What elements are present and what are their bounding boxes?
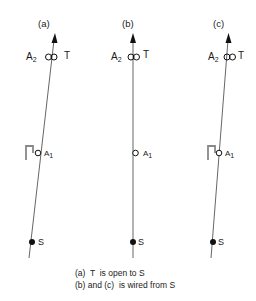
ring-a1-icon <box>35 150 41 156</box>
panel-a <box>26 33 58 258</box>
caption-line-2: (b) and (c) is wired from S <box>75 280 175 291</box>
label-s-a: S <box>38 237 44 247</box>
double-ring-icon <box>46 54 58 60</box>
caption-line-1: (a) T is open to S <box>75 268 145 279</box>
arrow-head-icon <box>226 33 232 43</box>
label-a2-b: A2 <box>111 52 122 65</box>
ring-a1-icon <box>216 150 222 156</box>
panel-title-c: (c) <box>213 19 224 29</box>
double-ring-icon <box>224 54 236 60</box>
label-t-c: T <box>238 51 244 61</box>
gate-bracket-icon <box>208 146 215 160</box>
panel-c <box>208 33 236 258</box>
source-dot-icon <box>29 239 35 245</box>
label-t-b: T <box>143 50 149 60</box>
double-ring-icon <box>128 54 140 60</box>
label-a1-b: A1 <box>143 149 152 161</box>
label-s-c: S <box>218 237 224 247</box>
label-s-b: S <box>138 237 144 247</box>
panel-title-a: (a) <box>38 19 50 29</box>
source-dot-icon <box>130 239 136 245</box>
arrow-head-icon <box>130 33 136 43</box>
label-a2-a: A2 <box>26 52 37 65</box>
label-a2-c: A2 <box>208 52 219 65</box>
gate-bracket-icon <box>26 146 33 160</box>
label-a1-a: A1 <box>44 149 53 161</box>
diagram-canvas <box>0 0 256 301</box>
arrow-head-icon <box>52 33 58 43</box>
label-a1-c: A1 <box>225 149 234 161</box>
panel-b <box>128 33 140 258</box>
ring-a1-icon <box>133 150 139 156</box>
source-dot-icon <box>210 239 216 245</box>
panel-title-b: (b) <box>122 19 134 29</box>
label-t-a: T <box>64 51 70 61</box>
